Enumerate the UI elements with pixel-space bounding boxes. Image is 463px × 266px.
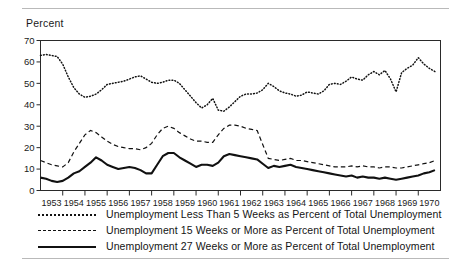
solid-line-key [36,240,98,252]
series-line-1 [41,54,435,111]
chart-legend: Unemployment Less Than 5 Weeks as Percen… [36,206,456,254]
x-axis-ticks-group: 1953195419551956195719581959196019611962… [42,191,440,208]
legend-item: Unemployment 15 Weeks or More as Percent… [36,222,456,237]
series-group [41,54,435,181]
y-tick-label: 70 [24,35,35,46]
y-tick-label: 40 [24,99,35,110]
legend-item: Unemployment Less Than 5 Weeks as Percen… [36,206,456,221]
dashed-line-key [36,224,98,236]
series-line-3 [41,153,435,182]
y-tick-label: 0 [29,185,34,196]
legend-label: Unemployment 27 Weeks or More as Percent… [106,240,435,252]
y-tick-label: 20 [24,142,35,153]
chart-page: Percent 010203040506070 1953195419551956… [0,0,463,266]
y-tick-label: 50 [24,78,35,89]
y-tick-label: 10 [24,163,35,174]
legend-item: Unemployment 27 Weeks or More as Percent… [36,238,456,253]
legend-label: Unemployment Less Than 5 Weeks as Percen… [106,208,441,220]
dotted-line-key [36,208,98,220]
y-tick-label: 60 [24,56,35,67]
series-line-2 [41,125,435,168]
legend-label: Unemployment 15 Weeks or More as Percent… [106,224,435,236]
y-tick-label: 30 [24,121,35,132]
y-axis-ticks-group: 010203040506070 [24,35,41,196]
